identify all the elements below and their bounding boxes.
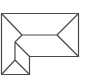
roof-outline <box>2 14 79 75</box>
roof-plan-icon <box>0 0 88 81</box>
valley-inner <box>15 42 30 57</box>
hip-bottom-left <box>2 60 16 75</box>
valley-connector <box>15 35 22 42</box>
hip-top-left <box>2 14 23 36</box>
hip-bottom-right <box>57 35 79 57</box>
hip-bottom-inner <box>15 60 30 75</box>
hip-top-right <box>57 14 79 36</box>
